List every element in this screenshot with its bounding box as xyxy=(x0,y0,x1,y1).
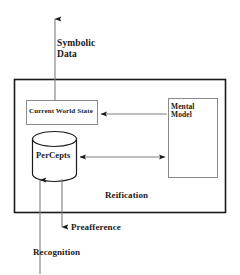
current-world-state-label: Current World State xyxy=(29,108,93,116)
reification-label: Reification xyxy=(105,190,148,200)
symbolic-data-label-line1: Symbolic xyxy=(57,38,95,48)
mental-model-label: MentalModel xyxy=(171,103,195,120)
symbolic-data-label-line2: Data xyxy=(57,49,77,59)
diagram-canvas: SymbolicData Current World State MentalM… xyxy=(0,0,240,275)
symbolic-data-label: SymbolicData xyxy=(57,38,95,59)
percepts-label: PerCepts xyxy=(36,151,70,161)
preafference-label: Preafference xyxy=(71,222,121,232)
recognition-label: Recognition xyxy=(33,247,80,257)
diagram-graphics xyxy=(0,0,240,275)
mental-model-label-line2: Model xyxy=(171,110,192,119)
